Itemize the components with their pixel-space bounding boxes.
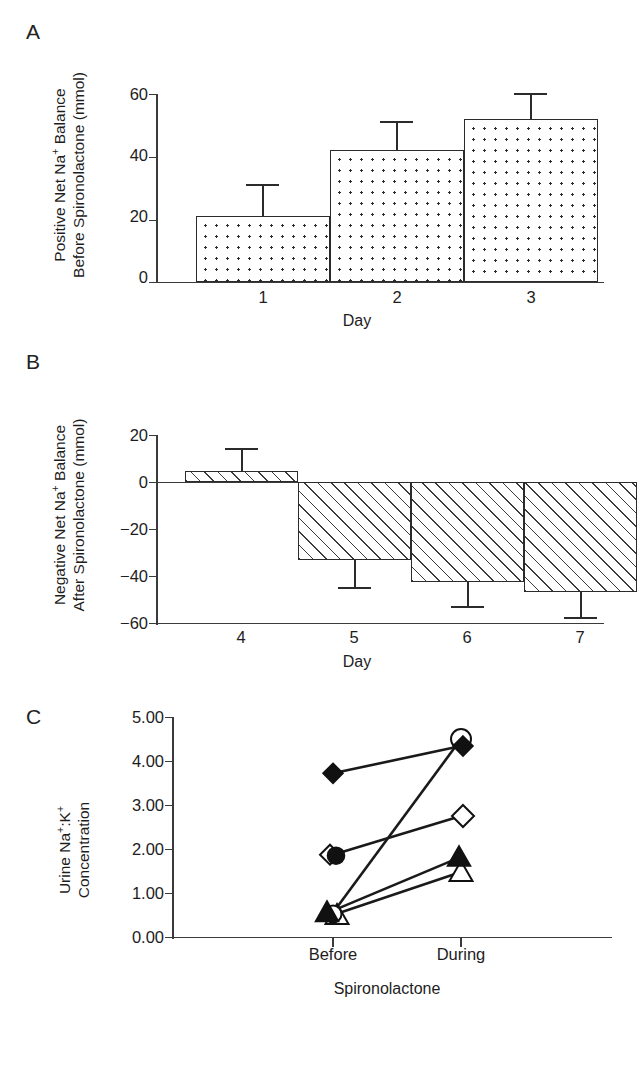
panel-a-ytick-60: 60 xyxy=(110,85,148,104)
figure-root: A Positive Net Na+ Balance Before Spiron… xyxy=(0,0,642,1072)
panel-c-xtick-during: During xyxy=(411,945,511,964)
panel-a-error-cap-day3 xyxy=(514,93,547,95)
panel-b: B Negative Net Na+ Balance After Spirono… xyxy=(0,345,642,690)
panel-b-bar-day5 xyxy=(298,482,411,560)
panel-a-ylabel-part2: Balance xyxy=(51,88,68,148)
panel-b-ytick-m60: −60 xyxy=(100,614,148,633)
panel-b-error-cap-day4 xyxy=(225,448,258,450)
panel-b-error-day4 xyxy=(241,449,243,472)
panel-b-bar-day6 xyxy=(411,482,524,582)
panel-b-error-cap-day6 xyxy=(451,606,484,608)
panel-b-error-day5 xyxy=(354,560,356,588)
slope-line-subject-3 xyxy=(333,739,461,913)
marker-filled-triangle-during xyxy=(448,846,471,866)
panel-a-ytick-20: 20 xyxy=(110,207,148,226)
panel-a-bar-day1 xyxy=(196,216,330,282)
panel-a-ylabel-sup1: + xyxy=(49,149,61,155)
panel-a-error-day1 xyxy=(262,185,264,217)
panel-a-ylabel-part1: Positive Net Na xyxy=(51,155,68,262)
panel-b-ylabel-part2: Balance xyxy=(51,425,68,485)
panel-b-ylabel-part1: Negative Net Na xyxy=(51,491,68,605)
panel-a-ytick-0: 0 xyxy=(110,268,148,287)
panel-b-xtick-6: 6 xyxy=(447,628,487,647)
panel-b-tick-m20 xyxy=(149,529,158,531)
panel-b-error-cap-day7 xyxy=(564,617,597,619)
panel-b-tick-20 xyxy=(149,435,158,437)
panel-a-bar-day3 xyxy=(464,119,598,282)
panel-a-bar-day2 xyxy=(330,150,464,282)
panel-a-ylabel-line2: Before Spironolactone (mmol) xyxy=(69,60,88,290)
panel-a-x-axis-title: Day xyxy=(317,312,397,330)
panel-b-bottom-line xyxy=(156,623,604,625)
panel-c-xtick-before: Before xyxy=(283,945,383,964)
panel-a-xtick-1: 1 xyxy=(243,288,283,307)
panel-b-ylabel-line2: After Spironolactone (mmol) xyxy=(69,390,88,640)
panel-c: C Urine Na+:K+ Concentration 5.00 4.00 3… xyxy=(0,695,642,1072)
panel-b-xtick-5: 5 xyxy=(334,628,374,647)
slope-line-subject-5 xyxy=(333,872,461,915)
panel-b-letter: B xyxy=(26,350,41,374)
panel-b-error-day7 xyxy=(580,592,582,618)
panel-a-letter: A xyxy=(26,20,41,44)
slope-line-subject-4 xyxy=(333,857,461,911)
panel-a-tick-20 xyxy=(149,220,158,222)
panel-b-bar-day7 xyxy=(524,482,637,592)
panel-a-y-axis xyxy=(156,94,158,282)
panel-a-xtick-2: 2 xyxy=(377,288,417,307)
panel-a-error-day3 xyxy=(530,94,532,120)
panel-a-ytick-40: 40 xyxy=(110,146,148,165)
panel-b-error-day6 xyxy=(467,582,469,607)
panel-a-error-cap-day2 xyxy=(380,121,413,123)
panel-b-xtick-7: 7 xyxy=(560,628,600,647)
marker-filled-circle-before xyxy=(328,847,345,864)
slope-line-subject-1 xyxy=(333,746,461,773)
panel-b-bar-day4 xyxy=(185,471,298,482)
slope-line-subject-2 xyxy=(333,816,461,855)
panel-b-y-axis-title: Negative Net Na+ Balance After Spironola… xyxy=(50,390,88,640)
panel-b-ylabel-sup1: + xyxy=(49,485,61,491)
panel-a-xtick-3: 3 xyxy=(511,288,551,307)
panel-a-tick-60 xyxy=(149,94,158,96)
panel-b-error-cap-day5 xyxy=(338,587,371,589)
panel-c-x-axis-title: Spironolactone xyxy=(287,980,487,998)
panel-b-ytick-m40: −40 xyxy=(100,567,148,586)
panel-b-ytick-0: 0 xyxy=(100,473,148,492)
panel-a: A Positive Net Na+ Balance Before Spiron… xyxy=(0,0,642,335)
panel-a-error-cap-day1 xyxy=(246,184,279,186)
panel-b-xtick-4: 4 xyxy=(221,628,261,647)
panel-a-tick-40 xyxy=(149,157,158,159)
panel-b-x-axis-title: Day xyxy=(317,653,397,671)
panel-b-ytick-m20: −20 xyxy=(100,520,148,539)
marker-open-diamond-during xyxy=(452,805,474,827)
panel-b-ytick-20: 20 xyxy=(100,426,148,445)
panel-a-error-day2 xyxy=(396,122,398,151)
panel-b-tick-m40 xyxy=(149,576,158,578)
marker-filled-diamond-before xyxy=(323,763,343,783)
panel-a-y-axis-title: Positive Net Na+ Balance Before Spironol… xyxy=(50,60,88,290)
